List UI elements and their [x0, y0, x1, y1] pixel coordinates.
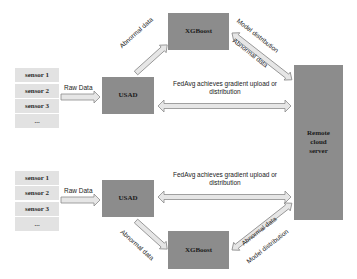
- cloud-line-3: server: [309, 147, 328, 156]
- bottom-sensor-3: sensor 3: [15, 202, 59, 216]
- top-fedavg-line-2: distribution: [163, 88, 287, 96]
- bottom-sensor-1: sensor 1: [15, 171, 59, 185]
- bottom-xgboost-box: XGBoost: [168, 231, 229, 269]
- top-fedavg-double-arrow: [158, 100, 291, 112]
- top-usad-box: USAD: [102, 77, 154, 114]
- top-raw-data-label: Raw Data: [64, 84, 93, 92]
- top-sensor-more: ...: [15, 114, 59, 128]
- bottom-fedavg-line-1: FedAvg achieves gradient upload or: [163, 171, 287, 179]
- top-sensor-2: sensor 2: [15, 84, 59, 98]
- bottom-usad-box: USAD: [102, 180, 154, 217]
- bottom-raw-data-arrow: [61, 194, 100, 206]
- bottom-fedavg-label: FedAvg achieves gradient upload or distr…: [163, 171, 287, 187]
- top-fedavg-label: FedAvg achieves gradient upload or distr…: [163, 80, 287, 96]
- top-usad-label: USAD: [118, 91, 137, 100]
- remote-cloud-server-box: Remote cloud server: [294, 65, 343, 220]
- top-fedavg-line-1: FedAvg achieves gradient upload or: [163, 80, 287, 88]
- top-raw-data-arrow: [61, 91, 100, 103]
- top-usad-to-xgboost-arrow: [133, 41, 171, 77]
- top-xgboost-label: XGBoost: [185, 27, 212, 36]
- top-sensor-3: sensor 3: [15, 99, 59, 113]
- bottom-xgboost-label: XGBoost: [185, 246, 212, 255]
- bottom-sensor-2: sensor 2: [15, 186, 59, 200]
- bottom-fedavg-line-2: distribution: [163, 179, 287, 187]
- top-xgboost-box: XGBoost: [168, 13, 229, 50]
- bottom-raw-data-label: Raw Data: [64, 187, 93, 195]
- bottom-fedavg-double-arrow: [158, 191, 291, 203]
- cloud-line-2: cloud: [310, 138, 326, 147]
- top-sensor-1: sensor 1: [15, 68, 59, 82]
- bottom-sensor-more: ...: [15, 217, 59, 231]
- bottom-usad-label: USAD: [118, 194, 137, 203]
- cloud-line-1: Remote: [307, 129, 330, 138]
